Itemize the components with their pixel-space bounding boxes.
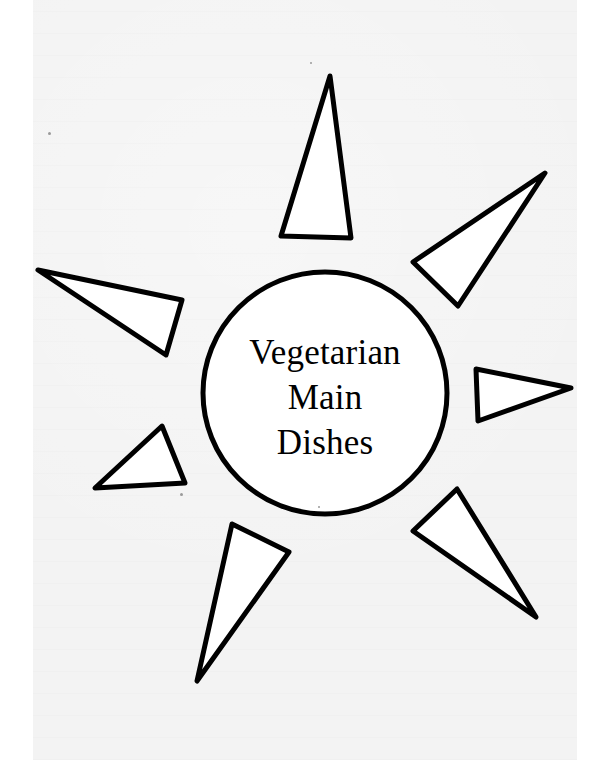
title-line-1: Vegetarian [203,330,447,375]
ray-bottom [197,524,289,681]
ray-lower-right [413,489,536,617]
section-title: Vegetarian Main Dishes [203,330,447,465]
scan-speck [310,62,312,64]
scanned-page: Vegetarian Main Dishes [0,0,610,760]
scan-speck [48,132,51,135]
scan-speck [318,506,320,508]
scan-speck [180,493,183,496]
title-line-3: Dishes [203,420,447,465]
ray-upper-right [413,173,545,306]
ray-lower-left [95,426,185,488]
ray-top [281,76,351,238]
ray-right [476,369,571,421]
ray-left [38,270,182,355]
title-line-2: Main [203,375,447,420]
